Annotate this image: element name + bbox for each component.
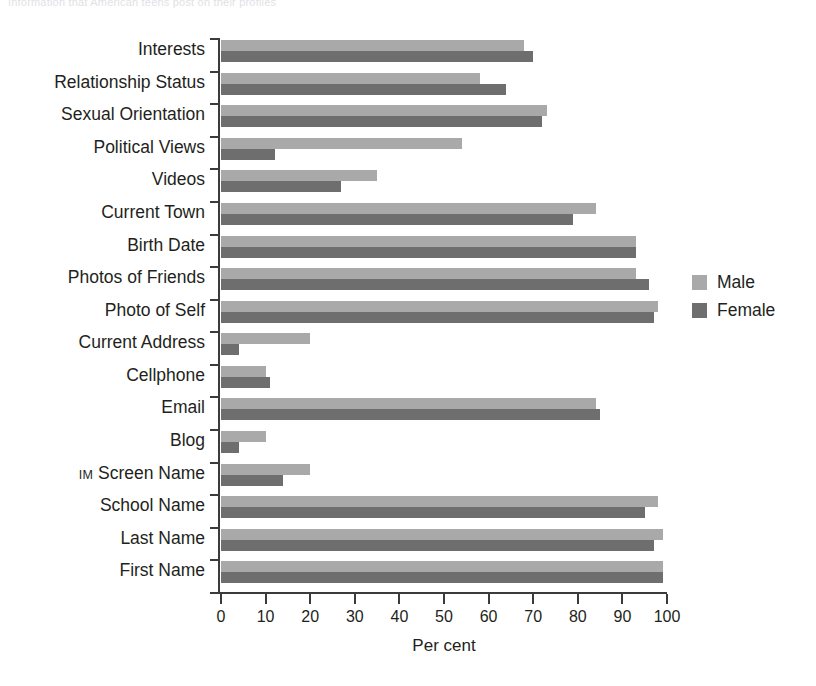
y-axis-label-current-town: Current Town: [0, 204, 205, 222]
bar-male-relationship-status: [221, 73, 480, 84]
y-axis-label-videos: Videos: [0, 171, 205, 189]
y-axis-tick: [210, 103, 219, 105]
legend-label: Female: [717, 300, 775, 321]
x-axis-tick: [265, 594, 267, 604]
legend-item-male[interactable]: Male: [692, 268, 802, 296]
y-axis-label-school-name: School Name: [0, 497, 205, 515]
x-axis-tick-label: 60: [480, 608, 498, 626]
y-axis-tick: [210, 71, 219, 73]
y-axis-tick: [210, 592, 219, 594]
bar-male-photo-of-self: [221, 301, 658, 312]
bar-male-current-town: [221, 203, 596, 214]
label-smallcaps-prefix: IM: [79, 468, 94, 482]
x-axis-tick: [621, 594, 623, 604]
bar-male-sexual-orientation: [221, 105, 547, 116]
x-axis-tick-label: 30: [346, 608, 364, 626]
x-axis-tick: [309, 594, 311, 604]
x-axis-tick-label: 20: [301, 608, 319, 626]
bar-female-cellphone: [221, 377, 270, 388]
y-axis-label-blog: Blog: [0, 432, 205, 450]
y-axis-tick: [210, 559, 219, 561]
bar-male-first-name: [221, 561, 663, 572]
bar-male-im-screen-name: [221, 464, 310, 475]
legend-label: Male: [717, 272, 755, 293]
x-axis-tick-label: 100: [654, 608, 681, 626]
bar-female-email: [221, 409, 600, 420]
bar-female-sexual-orientation: [221, 116, 542, 127]
y-axis-label-first-name: First Name: [0, 562, 205, 580]
x-axis-tick: [666, 594, 668, 604]
y-axis-label-cellphone: Cellphone: [0, 367, 205, 385]
bar-male-last-name: [221, 529, 663, 540]
bar-female-videos: [221, 181, 341, 192]
x-axis-tick: [532, 594, 534, 604]
x-axis-tick-label: 40: [390, 608, 408, 626]
x-axis-tick-label: 70: [524, 608, 542, 626]
y-axis-label-political-views: Political Views: [0, 139, 205, 157]
chart-legend: MaleFemale: [692, 268, 802, 324]
bar-female-school-name: [221, 507, 645, 518]
y-axis-category-labels: InterestsRelationship StatusSexual Orien…: [0, 38, 205, 592]
y-axis-label-photo-of-self: Photo of Self: [0, 302, 205, 320]
bar-male-cellphone: [221, 366, 266, 377]
y-axis-label-sexual-orientation: Sexual Orientation: [0, 106, 205, 124]
bar-female-blog: [221, 442, 239, 453]
y-axis-label-email: Email: [0, 399, 205, 417]
y-axis-tick: [210, 396, 219, 398]
x-axis-tick: [443, 594, 445, 604]
x-axis-tick-label: 90: [613, 608, 631, 626]
y-axis-tick: [210, 429, 219, 431]
y-axis-label-im-screen-name: IM Screen Name: [0, 465, 205, 483]
y-axis-tick: [210, 462, 219, 464]
y-axis-tick: [210, 168, 219, 170]
legend-swatch-female-icon: [692, 303, 707, 318]
x-axis-tick: [488, 594, 490, 604]
bar-female-interests: [221, 51, 533, 62]
y-axis-label-last-name: Last Name: [0, 530, 205, 548]
y-axis-tick: [210, 266, 219, 268]
bar-male-political-views: [221, 138, 462, 149]
plot-area: 0102030405060708090100: [221, 38, 667, 592]
bar-male-interests: [221, 40, 524, 51]
y-axis-label-interests: Interests: [0, 41, 205, 59]
bar-female-photo-of-self: [221, 312, 654, 323]
bar-female-birth-date: [221, 247, 636, 258]
horizontal-bar-chart: InterestsRelationship StatusSexual Orien…: [0, 0, 816, 686]
legend-swatch-male-icon: [692, 275, 707, 290]
legend-item-female[interactable]: Female: [692, 296, 802, 324]
y-axis-tick: [210, 136, 219, 138]
x-axis-tick-label: 80: [569, 608, 587, 626]
x-axis-tick: [398, 594, 400, 604]
bar-female-relationship-status: [221, 84, 506, 95]
y-axis-tick: [210, 331, 219, 333]
bar-male-photos-of-friends: [221, 268, 636, 279]
y-axis-label-birth-date: Birth Date: [0, 237, 205, 255]
y-axis-tick: [210, 201, 219, 203]
x-axis-tick: [354, 594, 356, 604]
x-axis-tick: [220, 594, 222, 604]
bar-female-photos-of-friends: [221, 279, 649, 290]
bar-female-current-address: [221, 344, 239, 355]
bar-male-birth-date: [221, 236, 636, 247]
bar-male-videos: [221, 170, 377, 181]
y-axis-label-current-address: Current Address: [0, 334, 205, 352]
bar-female-im-screen-name: [221, 475, 283, 486]
x-axis-title: Per cent: [221, 636, 667, 656]
y-axis-tick: [210, 527, 219, 529]
x-axis-tick-label: 0: [217, 608, 226, 626]
y-axis-tick: [210, 234, 219, 236]
x-axis-tick-label: 10: [257, 608, 275, 626]
y-axis-label-photos-of-friends: Photos of Friends: [0, 269, 205, 287]
x-axis-tick: [577, 594, 579, 604]
bar-female-last-name: [221, 540, 654, 551]
y-axis-line: [218, 38, 220, 592]
y-axis-label-relationship-status: Relationship Status: [0, 74, 205, 92]
bar-female-political-views: [221, 149, 275, 160]
y-axis-tick: [210, 38, 219, 40]
bar-female-first-name: [221, 572, 663, 583]
y-axis-tick: [210, 494, 219, 496]
y-axis-tick: [210, 364, 219, 366]
bar-male-school-name: [221, 496, 658, 507]
y-axis-tick: [210, 299, 219, 301]
x-axis-tick-label: 50: [435, 608, 453, 626]
